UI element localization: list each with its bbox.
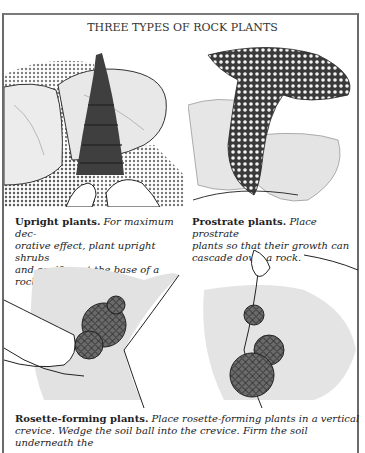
caption-rosette: Rosette-forming plants. Place rosette-fo… [15, 413, 360, 449]
rosette-planting-illustration [4, 250, 358, 410]
page-title: THREE TYPES OF ROCK PLANTS [0, 21, 365, 34]
caption-heading: Prostrate plants. [192, 216, 286, 227]
upright-plant-illustration [4, 35, 184, 207]
caption-text: crevice. Wedge the soil ball into the cr… [15, 425, 308, 448]
caption-heading: Rosette-forming plants. [15, 413, 148, 424]
caption-heading: Upright plants. [15, 216, 100, 227]
prostrate-plant-illustration [188, 35, 358, 207]
caption-text: Place rosette-forming plants in a vertic… [148, 413, 359, 424]
